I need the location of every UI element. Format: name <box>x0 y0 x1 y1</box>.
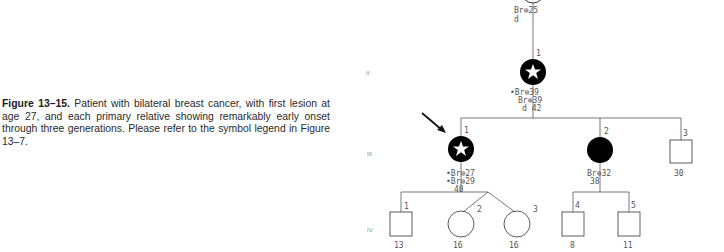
gen4-3-age: 16 <box>509 241 519 250</box>
gen1-label-line2: d <box>514 15 519 24</box>
gen3-2-label-line2: 38 <box>590 177 600 186</box>
gen3-1-label-line3: 40 <box>454 185 464 194</box>
gen1-label-line1: Br⊕25 <box>514 6 538 15</box>
generation-label-ii: II <box>366 70 370 76</box>
gen4-5-unaffected-square <box>618 212 640 236</box>
gen4-2-unaffected-circle <box>448 211 474 237</box>
gen3-3-unaffected-square <box>670 140 692 163</box>
gen3-1-id: 1 <box>464 126 469 135</box>
gen2-id: 1 <box>536 49 541 58</box>
proband-arrow-icon <box>422 113 442 130</box>
gen4-5-age: 11 <box>623 241 633 250</box>
gen3-3-id: 3 <box>683 129 688 138</box>
gen4-4-age: 8 <box>570 241 575 250</box>
generation-label-iv: IV <box>367 227 373 233</box>
twin-line-left <box>463 192 488 212</box>
gen4-1-age: 13 <box>394 241 404 250</box>
twin-line-right <box>488 192 515 212</box>
generation-label-iii: III <box>367 151 372 157</box>
pedigree-chart: II III IV Br⊕25 d 1 •Br⊕39 Br⊕39 d 42 1 … <box>0 0 724 252</box>
gen4-1-id: 1 <box>404 202 409 211</box>
gen4-5-id: 5 <box>631 201 636 210</box>
gen4-2-id: 2 <box>477 205 482 214</box>
gen3-2-id: 2 <box>604 127 609 136</box>
gen4-3-id: 3 <box>533 205 538 214</box>
gen4-4-unaffected-square <box>562 212 584 236</box>
gen4-1-unaffected-square <box>390 212 412 236</box>
gen1-individual-circle <box>522 0 544 3</box>
gen4-4-id: 4 <box>575 201 580 210</box>
gen2-label-line3: d 42 <box>522 104 541 113</box>
gen3-2-affected-circle <box>587 137 613 163</box>
gen4-3-unaffected-circle <box>504 211 530 237</box>
gen4-2-age: 16 <box>453 241 463 250</box>
gen3-3-label-line1: 30 <box>674 169 684 178</box>
